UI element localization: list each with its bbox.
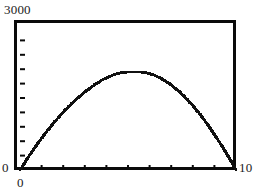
chart-figure: 3000 0 0 10 (0, 0, 253, 195)
data-point (235, 169, 238, 172)
data-series-curve (19, 71, 238, 172)
y-axis-min-label: 0 (2, 161, 9, 174)
plot-canvas (17, 23, 239, 173)
x-axis-max-label: 10 (239, 161, 252, 174)
x-axis-ticks (42, 165, 215, 170)
y-axis-ticks (20, 40, 25, 155)
x-axis-min-label: 0 (17, 176, 24, 189)
plot-area (14, 20, 236, 170)
y-axis-max-label: 3000 (4, 3, 31, 16)
